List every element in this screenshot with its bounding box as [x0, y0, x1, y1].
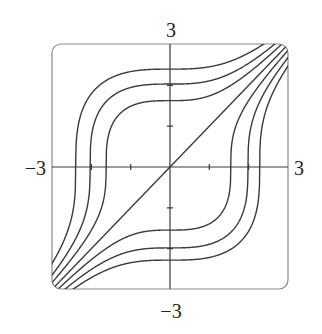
- x-min-label: −3: [25, 157, 46, 179]
- y-max-label: 3: [166, 19, 176, 41]
- level-curves-plot: 3 −3 −3 3: [0, 0, 322, 334]
- y-min-label: −3: [160, 300, 181, 322]
- x-max-label: 3: [294, 157, 304, 179]
